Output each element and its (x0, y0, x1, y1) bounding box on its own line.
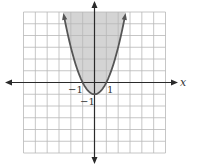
parabola-graph: −1 1 −1 x (0, 0, 197, 165)
tick-label-x-pos1: 1 (107, 84, 113, 95)
tick-label-x-neg1: −1 (68, 84, 83, 95)
x-axis-label: x (180, 76, 187, 89)
tick-label-y-neg1: −1 (80, 96, 95, 107)
